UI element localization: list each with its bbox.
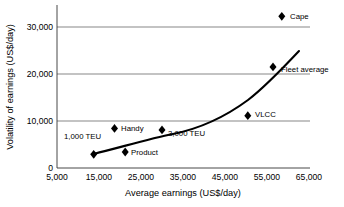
x-tick-label-55000: 55,000 — [254, 172, 281, 182]
y-tick-label-30000: 30,000 — [27, 22, 54, 32]
point-label-product: Product — [131, 148, 159, 157]
point-label-vlcc: VLCC — [255, 110, 276, 119]
scatter-chart: 30,000 20,000 10,000 0 5,000 15,000 25,0… — [0, 0, 344, 207]
y-axis-title: Volatility of earnings (US$/day) — [5, 24, 15, 150]
y-tick-labels: 30,000 20,000 10,000 0 — [27, 22, 54, 173]
plot-area-background — [57, 5, 310, 168]
point-label-1000-teu: 1,000 TEU — [64, 132, 101, 141]
x-tick-label-35000: 35,000 — [170, 172, 197, 182]
point-label-handy: Handy — [121, 124, 144, 133]
x-tick-label-65000: 65,000 — [296, 172, 323, 182]
point-label-cape: Cape — [290, 12, 309, 21]
x-tick-labels: 5,000 15,000 25,000 35,000 45,000 55,000… — [46, 172, 322, 182]
x-tick-label-15000: 15,000 — [86, 172, 113, 182]
x-tick-label-25000: 25,000 — [128, 172, 155, 182]
point-label-fleet-average: Fleet average — [281, 65, 329, 74]
x-axis-title: Average earnings (US$/day) — [125, 188, 241, 198]
y-tick-label-20000: 20,000 — [27, 69, 54, 79]
point-label-3000-teu: 3,000 TEU — [168, 129, 205, 138]
chart-container: 30,000 20,000 10,000 0 5,000 15,000 25,0… — [0, 0, 344, 207]
y-tick-label-10000: 10,000 — [27, 116, 54, 126]
x-tick-label-45000: 45,000 — [212, 172, 239, 182]
x-tick-label-5000: 5,000 — [46, 172, 68, 182]
